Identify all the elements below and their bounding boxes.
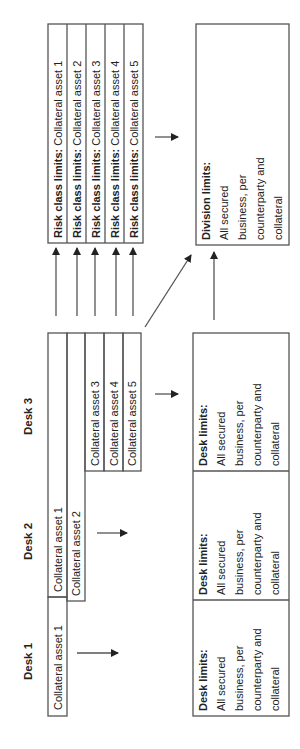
desk-3-limits-line: business, per: [233, 400, 245, 466]
division-limits-title: Division limits:: [200, 162, 212, 240]
desk-3-collateral-asset-5-label: Collateral asset 5: [126, 381, 138, 466]
limits-hierarchy-diagram: Desk 1 Desk 2 Desk 3 Collateral asset 1 …: [0, 0, 300, 749]
desk-2-limits-line: counterparty and: [251, 512, 263, 595]
desk-3-collateral-asset-3-label: Collateral asset 3: [89, 381, 101, 466]
desk-3-limits-line: counterparty and: [251, 383, 263, 466]
division-limits-line: All secured: [218, 186, 230, 240]
division-limits-line: collateral: [272, 196, 284, 240]
division-limits-box: Division limits: All secured business, p…: [196, 24, 289, 245]
desk-3-label: Desk 3: [22, 398, 34, 435]
desk-limits-group: Desk limits: All secured business, per c…: [193, 333, 289, 716]
desk-2-limits-title: Desk limits:: [197, 533, 209, 595]
division-limits-line: business, per: [236, 174, 248, 240]
collateral-group: Collateral asset 1 Collateral asset 1 Co…: [48, 333, 141, 716]
desk-1-limits-line: business, per: [233, 645, 245, 711]
desk-1-limits-line: counterparty and: [251, 628, 263, 711]
desk-2-collateral-asset-1-label: Collateral asset 1: [52, 507, 64, 592]
desk-3-limits-title: Desk limits:: [197, 404, 209, 466]
risk-class-limit-4: Risk class limits: Collateral asset 4: [109, 61, 121, 238]
desk-1-label: Desk 1: [22, 642, 34, 680]
desk-3-limits-line: collateral: [269, 422, 281, 466]
desk-3-limits-line: All secured: [215, 412, 227, 466]
desk-2-limits-line: business, per: [233, 529, 245, 595]
division-limits-line: counterparty and: [254, 157, 266, 240]
desk-1-limits-line: All secured: [215, 657, 227, 711]
desk-2-limits-line: collateral: [269, 551, 281, 595]
desk-2-collateral-asset-2-label: Collateral asset 2: [70, 511, 82, 596]
arrow-diagonal-icon: [145, 255, 191, 327]
desk-1-collateral-asset-1-label: Collateral asset 1: [52, 625, 64, 710]
risk-class-limit-2: Risk class limits: Collateral asset 2: [71, 61, 83, 238]
desk-1-limits-line: collateral: [269, 667, 281, 711]
risk-class-limits-group: Risk class limits: Collateral asset 1 Ri…: [48, 24, 143, 243]
risk-class-limit-1: Risk class limits: Collateral asset 1: [52, 61, 64, 238]
desk-2-label: Desk 2: [22, 523, 34, 560]
desk-1-limits-title: Desk limits:: [197, 649, 209, 711]
risk-class-limit-5: Risk class limits: Collateral asset 5: [128, 61, 140, 238]
desk-3-collateral-asset-4-label: Collateral asset 4: [108, 381, 120, 466]
desk-2-limits-line: All secured: [215, 541, 227, 595]
risk-class-limit-3: Risk class limits: Collateral asset 3: [90, 61, 102, 238]
collateral-to-risk-arrows: [56, 248, 133, 316]
